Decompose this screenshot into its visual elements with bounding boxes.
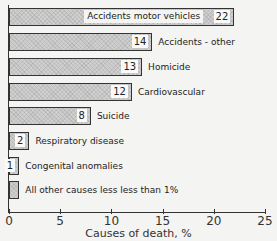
bar-value-label: 13: [121, 60, 138, 73]
bar-value-label: 14: [132, 35, 149, 48]
category-label: Suicide: [97, 107, 130, 125]
category-label: Cardiovascular: [138, 83, 205, 101]
bar: 2: [9, 132, 29, 150]
bar: 13: [9, 58, 142, 76]
bar: 12: [9, 83, 132, 101]
bar: 14: [9, 33, 152, 51]
bar: 8: [9, 107, 91, 125]
category-label: Homicide: [148, 58, 190, 76]
x-axis-line: [9, 212, 265, 213]
category-label: Accidents motor vehicles: [84, 10, 203, 23]
x-tick-label: 5: [45, 214, 75, 228]
x-tick-label: 25: [250, 214, 277, 228]
bar: 1: [9, 157, 19, 175]
bar-value-label: 22: [214, 10, 231, 23]
bar-value-label: 12: [111, 85, 128, 98]
bar: 22Accidents motor vehicles: [9, 8, 234, 26]
bar-value-label: 8: [77, 109, 87, 122]
x-tick-label: 10: [96, 214, 126, 228]
bar: [9, 181, 19, 199]
category-label: Accidents - other: [158, 33, 235, 51]
category-label: Congenital anomalies: [25, 157, 123, 175]
bar-chart: 22Accidents motor vehicles14Accidents - …: [0, 0, 277, 241]
bar-value-label: 2: [15, 134, 25, 147]
x-tick-label: 0: [0, 214, 24, 228]
x-axis-label: Causes of death, %: [0, 227, 277, 240]
bar-value-label: 1: [5, 159, 15, 172]
x-tick-label: 15: [148, 214, 178, 228]
category-label: All other causes less less than 1%: [25, 181, 178, 199]
category-label: Respiratory disease: [35, 132, 124, 150]
x-tick-label: 20: [199, 214, 229, 228]
